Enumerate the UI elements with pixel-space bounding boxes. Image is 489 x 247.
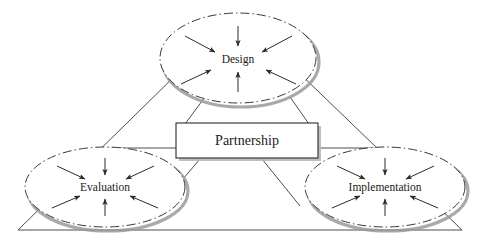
node-design[interactable]: Design <box>160 13 319 107</box>
implementation-label: Implementation <box>349 181 422 194</box>
node-partnership[interactable]: Partnership <box>176 123 321 161</box>
connector-partnership-implementation-diagonal <box>262 159 300 206</box>
node-evaluation[interactable]: Evaluation <box>25 147 188 231</box>
diagram-svg: Design Evaluation <box>0 0 489 247</box>
node-implementation[interactable]: Implementation <box>305 147 468 231</box>
design-label: Design <box>222 53 255 66</box>
evaluation-label: Evaluation <box>80 181 130 193</box>
partnership-label: Partnership <box>215 133 279 148</box>
connector-partnership-design-right <box>290 97 309 124</box>
diagram-canvas: Design Evaluation <box>0 0 489 247</box>
